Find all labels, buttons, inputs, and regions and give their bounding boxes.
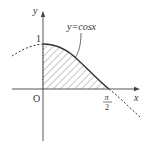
- x-tick-pi-over-2-label: π 2: [103, 93, 112, 112]
- x-axis-label: x: [133, 92, 139, 103]
- function-label: y=cosx: [66, 21, 97, 32]
- label-leader-line: [75, 33, 81, 58]
- y-axis-label: y: [32, 5, 38, 16]
- cos-curve-left-dashed: [12, 44, 43, 56]
- pi-numerator: π: [105, 93, 110, 102]
- x-axis-arrow-icon: [134, 87, 140, 91]
- y-axis-arrow-icon: [41, 11, 45, 17]
- cosine-area-figure: y=cosx y x O 1 π 2: [0, 0, 149, 149]
- y-tick-one-label: 1: [36, 33, 41, 44]
- denominator: 2: [105, 103, 109, 112]
- origin-label: O: [33, 93, 40, 104]
